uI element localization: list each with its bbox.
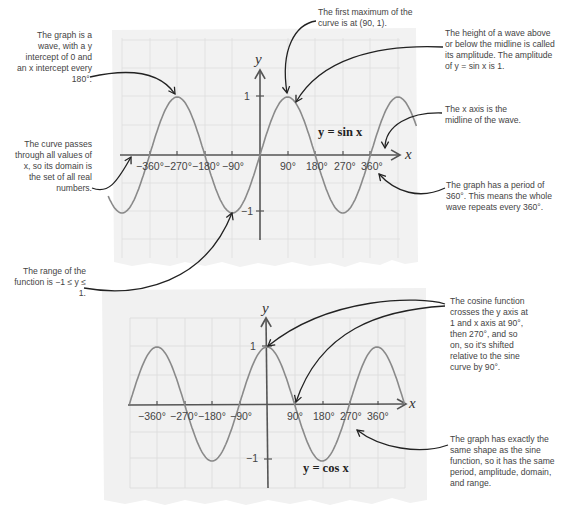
svg-text:−360°: −360°	[138, 410, 166, 422]
sine-y-axis-label: y	[253, 51, 262, 67]
svg-text:180°: 180°	[313, 410, 335, 422]
note-period: The graph has a period of 360°. This mea…	[446, 180, 561, 213]
sine-graph-paper	[108, 28, 418, 267]
cosine-y-axis-label: y	[260, 300, 269, 316]
svg-text:−180°: −180°	[198, 410, 226, 422]
svg-text:90°: 90°	[280, 160, 296, 172]
note-cosine-shift: The cosine function crosses the y axis a…	[450, 296, 530, 373]
svg-text:−270°: −270°	[164, 160, 192, 172]
note-cosine-same-shape: The graph has exactly the same shape as …	[450, 434, 560, 489]
cosine-x-axis-label: x	[408, 395, 416, 411]
svg-text:270°: 270°	[340, 410, 362, 422]
svg-text:90°: 90°	[287, 410, 303, 422]
note-amplitude: The height of a wave above or below the …	[445, 28, 560, 72]
note-wave-intercepts: The graph is a wave, with a y intercept …	[14, 30, 92, 85]
cosine-y-tick-neg1: −1	[246, 452, 258, 464]
note-domain: The curve passes through all values of x…	[14, 139, 92, 194]
sine-y-tick-1: 1	[244, 90, 250, 102]
cosine-equation-label: y = cos x	[303, 461, 349, 475]
svg-text:−360°: −360°	[136, 160, 164, 172]
note-first-max: The first maximum of the curve is at (90…	[318, 7, 428, 29]
sine-equation-label: y = sin x	[318, 125, 363, 139]
svg-text:360°: 360°	[361, 160, 383, 172]
svg-text:−270°: −270°	[170, 410, 198, 422]
svg-text:270°: 270°	[334, 160, 356, 172]
note-range: The range of the function is −1 ≤ y ≤ 1.	[10, 266, 86, 299]
svg-text:−90°: −90°	[230, 410, 252, 422]
cosine-y-tick-1: 1	[250, 340, 256, 352]
svg-text:360°: 360°	[367, 410, 389, 422]
svg-text:−90°: −90°	[222, 160, 244, 172]
cosine-graph-paper	[102, 288, 427, 505]
note-midline: The x axis is the midline of the wave.	[445, 104, 535, 126]
sine-y-tick-neg1: −1	[241, 205, 253, 217]
svg-text:−180°: −180°	[192, 160, 220, 172]
sine-x-axis-label: x	[404, 146, 412, 162]
svg-text:180°: 180°	[306, 160, 328, 172]
